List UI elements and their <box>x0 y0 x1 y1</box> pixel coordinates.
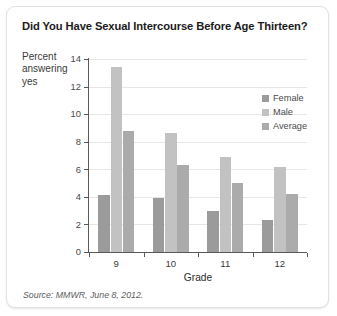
legend-label: Average <box>273 121 307 131</box>
x-axis-title: Grade <box>89 272 307 283</box>
chart-card: Did You Have Sexual Intercourse Before A… <box>6 6 329 308</box>
plot-area <box>89 59 307 252</box>
legend-item-male[interactable]: Male <box>262 106 332 118</box>
x-tick-mark <box>144 253 145 257</box>
y-tick-label: 2 <box>59 220 81 229</box>
y-axis-line <box>88 58 89 253</box>
y-tick-mark <box>84 197 88 198</box>
legend: FemaleMaleAverage <box>262 92 332 134</box>
x-tick-label-9: 9 <box>96 259 136 269</box>
x-tick-mark <box>198 253 199 257</box>
y-tick-label: 14 <box>59 54 81 63</box>
bar-male-grade-12 <box>274 167 286 252</box>
legend-swatch-icon <box>262 109 269 116</box>
legend-swatch-icon <box>262 95 269 102</box>
x-tick-label-11: 11 <box>205 259 245 269</box>
gridline <box>89 59 307 60</box>
x-tick-label-12: 12 <box>260 259 300 269</box>
y-tick-mark <box>84 252 88 253</box>
y-tick-mark <box>84 142 88 143</box>
y-tick-label: 0 <box>59 247 81 256</box>
legend-label: Male <box>273 107 293 117</box>
bar-male-grade-11 <box>220 157 232 252</box>
legend-swatch-icon <box>262 123 269 130</box>
legend-item-female[interactable]: Female <box>262 92 332 104</box>
bar-average-grade-11 <box>232 183 244 252</box>
x-tick-mark <box>253 253 254 257</box>
bar-female-grade-10 <box>153 198 165 252</box>
bar-average-grade-12 <box>286 194 298 252</box>
bar-average-grade-10 <box>177 165 189 252</box>
y-tick-mark <box>84 169 88 170</box>
y-tick-label: 12 <box>59 82 81 91</box>
source-note: Source: MMWR, June 8, 2012. <box>23 290 143 300</box>
page-title: Did You Have Sexual Intercourse Before A… <box>22 20 317 33</box>
y-tick-mark <box>84 114 88 115</box>
y-tick-label: 8 <box>59 137 81 146</box>
bar-male-grade-10 <box>165 133 177 252</box>
legend-item-average[interactable]: Average <box>262 120 332 132</box>
bar-female-grade-12 <box>262 220 274 252</box>
x-tick-mark <box>89 253 90 257</box>
bar-average-grade-9 <box>123 131 135 252</box>
x-tick-label-10: 10 <box>151 259 191 269</box>
legend-label: Female <box>273 93 304 103</box>
x-tick-mark <box>307 253 308 257</box>
y-tick-mark <box>84 87 88 88</box>
y-tick-label: 4 <box>59 192 81 201</box>
bar-male-grade-9 <box>111 67 123 252</box>
bar-female-grade-11 <box>207 211 219 252</box>
y-tick-label: 10 <box>59 109 81 118</box>
y-tick-label: 6 <box>59 165 81 174</box>
y-tick-mark <box>84 224 88 225</box>
bar-female-grade-9 <box>98 195 110 252</box>
y-tick-mark <box>84 59 88 60</box>
